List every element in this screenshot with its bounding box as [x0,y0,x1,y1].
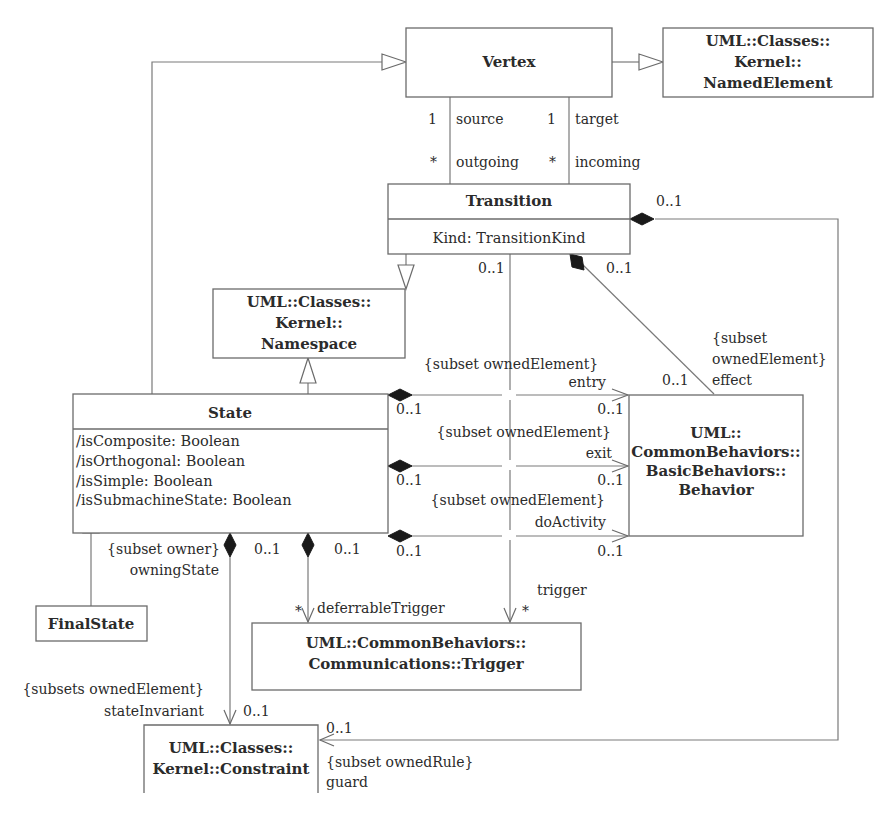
guard-end-multiplicity-label: 0..1 [326,720,353,736]
class-name: FinalState [48,615,135,633]
entry-end-multiplicity-label: 0..1 [597,401,624,417]
exit-end-multiplicity-label: 0..1 [597,472,624,488]
stateinvariant-owner-multiplicity-label: 0..1 [254,541,281,557]
incoming-multiplicity-label: * [549,154,556,170]
class-name-line: UML::Classes:: [706,32,831,50]
class-name-line: UML:: [690,424,741,442]
outgoing-multiplicity-label: * [430,154,437,170]
owner-constraint-label: {subset owner} [107,541,220,557]
effect-end-multiplicity-label: 0..1 [662,372,689,388]
effect-constraint-label: ownedElement} [712,351,827,367]
class-name-line: Kernel::Constraint [153,760,310,778]
trigger-end-multiplicity-label: * [522,603,529,619]
class-name-line: Behavior [678,481,754,499]
class-constraint[interactable]: UML::Classes:: Kernel::Constraint [144,725,318,793]
doactivity-end-multiplicity-label: 0..1 [597,543,624,559]
class-name-line: Namespace [261,335,357,353]
class-name: Vertex [481,53,536,71]
entry-owner-multiplicity-label: 0..1 [396,401,423,417]
class-attribute: /isOrthogonal: Boolean [76,453,245,469]
entry-role-label: entry [568,374,606,390]
stateinvariant-role-label: stateInvariant [104,703,204,719]
class-final-state[interactable]: FinalState [36,606,147,641]
class-namespace[interactable]: UML::Classes:: Kernel:: Namespace [213,289,405,358]
class-name-line: BasicBehaviors:: [646,462,786,480]
exit-role-label: exit [586,445,613,461]
class-attribute: /isSubmachineState: Boolean [76,492,292,508]
effect-owner-multiplicity-label: 0..1 [606,260,633,276]
composition-diamond-icon [630,213,654,225]
doactivity-constraint-label: {subset ownedElement} [431,492,605,508]
class-name-line: Kernel:: [275,314,342,332]
class-named-element[interactable]: UML::Classes:: Kernel:: NamedElement [663,28,873,97]
class-state[interactable]: State /isComposite: Boolean /isOrthogona… [73,394,388,533]
exit-constraint-label: {subset ownedElement} [437,424,611,440]
effect-role-label: effect [712,372,752,388]
source-multiplicity-label: 1 [428,111,437,127]
class-name-line: Communications::Trigger [308,655,524,673]
generalization-arrowhead-icon [639,54,663,70]
class-behavior[interactable]: UML:: CommonBehaviors:: BasicBehaviors::… [629,395,803,536]
composition-diamond-icon [224,533,236,557]
composition-diamond-icon [570,254,584,270]
guard-owner-multiplicity-label: 0..1 [656,193,683,209]
exit-owner-multiplicity-label: 0..1 [396,472,423,488]
class-name-line: NamedElement [703,74,832,92]
composition-diamond-icon [302,533,314,557]
deferrabletrigger-multiplicity-label: * [295,603,302,619]
trigger-role-label: trigger [537,582,587,598]
effect-constraint-label: {subset [712,330,768,346]
guard-role-label: guard [326,774,368,790]
class-attribute: Kind: TransitionKind [433,230,586,246]
class-name: Transition [466,192,552,210]
doactivity-owner-multiplicity-label: 0..1 [396,543,423,559]
composition-diamond-icon [388,530,412,542]
trigger-constraint-label: {subset ownedElement} [424,356,598,372]
trigger-owner-multiplicity-label: 0..1 [478,260,505,276]
outgoing-role-label: outgoing [456,154,519,170]
target-multiplicity-label: 1 [547,111,556,127]
class-vertex[interactable]: Vertex [406,28,612,97]
deferrabletrigger-owner-multiplicity-label: 0..1 [334,541,361,557]
stateinvariant-constraint-label: {subsets ownedElement} [22,681,204,697]
source-role-label: source [456,111,503,127]
composition-diamond-icon [388,389,412,401]
class-name: State [208,404,252,422]
class-attribute: /isComposite: Boolean [76,433,240,449]
class-name-line: Kernel:: [734,53,801,71]
class-name-line: UML::CommonBehaviors:: [306,634,527,652]
class-attribute: /isSimple: Boolean [76,473,213,489]
generalization-arrowhead-icon [398,265,414,289]
doactivity-role-label: doActivity [535,514,606,530]
generalization-arrowhead-icon [382,54,406,70]
deferrabletrigger-role-label: deferrableTrigger [317,600,445,616]
generalization-arrowhead-icon [300,358,316,383]
stateinvariant-end-multiplicity-label: 0..1 [243,703,270,719]
composition-diamond-icon [388,460,412,472]
incoming-role-label: incoming [575,154,641,170]
target-role-label: target [575,111,619,127]
class-transition[interactable]: Transition Kind: TransitionKind [388,184,630,254]
class-name-line: UML::Classes:: [247,293,372,311]
class-name-line: UML::Classes:: [169,739,294,757]
class-name-line: CommonBehaviors:: [631,443,800,461]
guard-constraint-label: {subset ownedRule} [326,754,474,770]
class-trigger[interactable]: UML::CommonBehaviors:: Communications::T… [252,623,581,690]
owning-state-role-label: owningState [130,562,219,578]
uml-state-machine-diagram: Vertex UML::Classes:: Kernel:: NamedElem… [0,0,893,821]
